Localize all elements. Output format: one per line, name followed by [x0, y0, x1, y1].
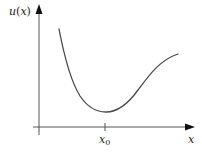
- x-axis-label: x: [188, 134, 194, 145]
- y-axis-label: u(x): [9, 6, 31, 17]
- diagram-canvas: u(x) x x0: [0, 0, 202, 153]
- plot-svg: [0, 0, 202, 153]
- y-label-paren-close: ): [27, 5, 31, 18]
- y-axis-arrow-icon: [36, 4, 43, 14]
- function-curve: [59, 29, 178, 112]
- x0-tick-label: x0: [99, 134, 110, 147]
- x0-label-subscript: 0: [105, 138, 110, 147]
- x-axis-arrow-icon: [185, 124, 195, 131]
